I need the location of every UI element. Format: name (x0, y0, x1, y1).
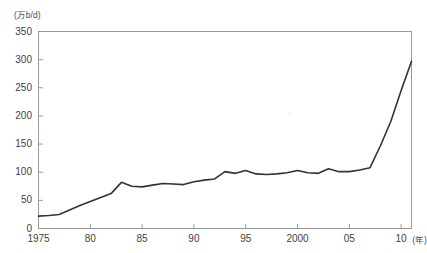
y-axis-tick-label: 100 (2, 167, 32, 177)
x-axis-tick-label: 05 (344, 234, 355, 244)
y-axis-tick-label: 150 (2, 139, 32, 149)
x-axis-tick-label: 80 (85, 234, 96, 244)
x-axis-tick-label: 90 (188, 234, 199, 244)
data-line-series-1 (39, 61, 412, 216)
y-axis-tick-label: 200 (2, 111, 32, 121)
x-axis-tick-label: 2000 (286, 234, 308, 244)
y-axis-tick-label: 50 (2, 195, 32, 205)
x-axis-tick-label: 10 (396, 234, 407, 244)
x-axis-tick-label: 95 (240, 234, 251, 244)
x-axis-tick-label: 85 (137, 234, 148, 244)
y-axis-tick-label: 350 (2, 27, 32, 37)
image-artifact-speck (289, 113, 290, 114)
y-axis-tick-marks (39, 32, 44, 229)
y-axis-tick-label: 250 (2, 83, 32, 93)
x-axis-unit-label: (年) (412, 235, 427, 245)
x-axis-tick-label: 1975 (27, 234, 49, 244)
y-axis-tick-label: 300 (2, 55, 32, 65)
x-axis-tick-marks (39, 224, 402, 229)
